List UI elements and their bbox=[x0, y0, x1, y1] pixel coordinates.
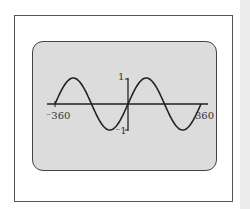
y-max-label: 1 bbox=[118, 72, 124, 82]
y-min-label: ⁻1 bbox=[115, 126, 127, 136]
x-max-label: 360 bbox=[195, 111, 214, 121]
x-min-label: ⁻360 bbox=[46, 111, 70, 121]
sine-graph bbox=[0, 0, 250, 209]
